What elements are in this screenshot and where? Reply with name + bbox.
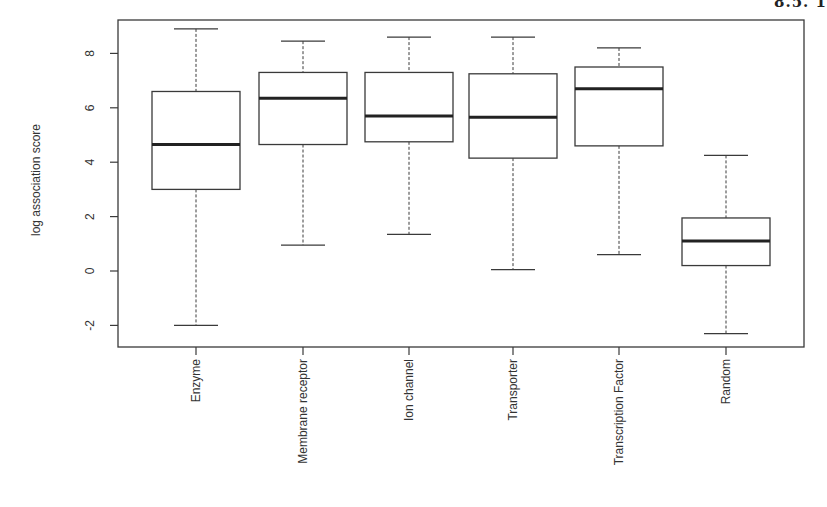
y-axis-label: log association score: [29, 124, 43, 236]
x-tick-label: Membrane receptor: [296, 359, 310, 464]
iqr-box: [259, 72, 347, 144]
x-tick-label: Transporter: [506, 359, 520, 421]
box-membrane-receptor: [259, 41, 347, 245]
iqr-box: [152, 91, 240, 189]
box-transcription-factor: [575, 48, 663, 255]
y-tick-label: -2: [83, 320, 97, 331]
box-random: [682, 155, 770, 333]
y-tick-label: 4: [83, 159, 97, 166]
x-tick-label: Transcription Factor: [612, 359, 626, 465]
x-tick-label: Random: [719, 359, 733, 404]
y-tick-label: 8: [83, 50, 97, 57]
y-tick-label: 2: [83, 213, 97, 220]
box-ion-channel: [365, 37, 453, 234]
box-series: [152, 29, 770, 334]
iqr-box: [575, 67, 663, 146]
x-tick-label: Enzyme: [189, 359, 203, 403]
x-axis: EnzymeMembrane receptorIon channelTransp…: [189, 347, 733, 465]
y-axis: -202468: [83, 50, 118, 331]
x-tick-label: Ion channel: [402, 359, 416, 421]
y-tick-label: 6: [83, 104, 97, 111]
box-enzyme: [152, 29, 240, 325]
box-transporter: [469, 37, 557, 270]
y-tick-label: 0: [83, 267, 97, 274]
iqr-box: [365, 72, 453, 141]
